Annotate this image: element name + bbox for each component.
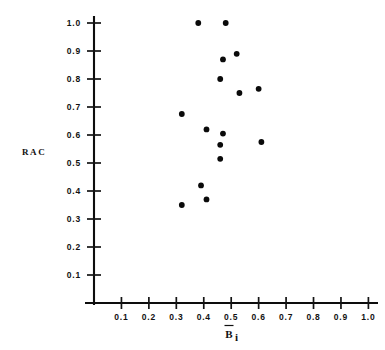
y-tick-label: 0.8: [67, 74, 81, 84]
y-tick-label: 0.6: [67, 130, 81, 140]
x-axis-title-subscript: i: [235, 331, 238, 343]
x-axis-group: 0.10.20.30.40.50.60.70.80.91.0: [85, 297, 378, 322]
x-tick-label: 0.4: [197, 312, 211, 322]
scatter-plot-figure: 0.10.20.30.40.50.60.70.80.91.0 0.10.20.3…: [0, 0, 385, 350]
y-tick-label: 0.7: [67, 102, 81, 112]
data-point: [217, 76, 223, 82]
data-point: [258, 139, 264, 145]
data-point: [217, 156, 223, 162]
data-points-group: [179, 20, 264, 208]
data-point: [256, 86, 262, 92]
plot-canvas: 0.10.20.30.40.50.60.70.80.91.0 0.10.20.3…: [0, 0, 385, 350]
data-point: [204, 126, 210, 132]
x-tick-label: 0.6: [252, 312, 266, 322]
data-point: [220, 57, 226, 63]
data-point: [179, 111, 185, 117]
y-tick-label: 0.2: [67, 242, 81, 252]
y-axis-group: 0.10.20.30.40.50.60.70.80.91.0: [67, 16, 101, 305]
data-point: [204, 197, 210, 203]
data-point: [220, 131, 226, 137]
data-point: [195, 20, 201, 26]
data-point: [237, 90, 243, 96]
y-tick-label: 1.0: [67, 18, 81, 28]
y-tick-label: 0.3: [67, 214, 81, 224]
y-tick-label: 0.9: [67, 46, 81, 56]
data-point: [217, 142, 223, 148]
x-axis-tick-labels: 0.10.20.30.40.50.60.70.80.91.0: [114, 312, 375, 322]
y-tick-label: 0.1: [67, 270, 81, 280]
x-tick-label: 0.3: [169, 312, 183, 322]
x-tick-label: 0.2: [142, 312, 156, 322]
data-point: [179, 202, 185, 208]
y-tick-label: 0.5: [67, 158, 81, 168]
y-axis-tick-labels: 0.10.20.30.40.50.60.70.80.91.0: [67, 18, 81, 280]
y-axis-title: RAC: [22, 147, 46, 157]
x-tick-label: 0.1: [114, 312, 128, 322]
x-tick-label: 1.0: [361, 312, 375, 322]
x-axis-title-base: B: [225, 328, 233, 340]
data-point: [223, 20, 229, 26]
x-tick-label: 0.5: [224, 312, 238, 322]
x-tick-label: 0.7: [279, 312, 293, 322]
x-tick-label: 0.9: [334, 312, 348, 322]
data-point: [198, 183, 204, 189]
x-axis-title: B i: [225, 326, 239, 344]
data-point: [234, 51, 240, 57]
y-tick-label: 0.4: [67, 186, 81, 196]
x-tick-label: 0.8: [306, 312, 320, 322]
